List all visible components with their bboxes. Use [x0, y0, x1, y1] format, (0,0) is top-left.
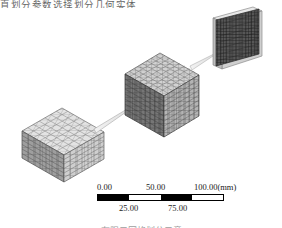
scale-bar-track [97, 194, 224, 201]
scale-label-50: 50.00 [146, 183, 165, 192]
fine-mesh-cube [125, 53, 199, 137]
coarse-mesh-cube [22, 108, 104, 182]
scale-label-75: 75.00 [168, 204, 187, 213]
scale-seg-3 [161, 195, 192, 200]
figure-caption-top: 直划分参数选择划分几何实体 [0, 0, 282, 8]
thin-plate [213, 7, 262, 69]
figure-caption-bottom: 有限元网格划分示意 [0, 224, 282, 228]
scale-label-0: 0.00 [97, 183, 112, 192]
scale-seg-1 [98, 195, 129, 200]
scale-label-25: 25.00 [119, 204, 138, 213]
scale-seg-2 [129, 195, 160, 200]
scale-bar: 0.00 50.00 100.00(mm) 25.00 75.00 [97, 183, 227, 213]
scale-seg-4 [192, 195, 223, 200]
scale-label-100: 100.00(mm) [194, 183, 236, 192]
